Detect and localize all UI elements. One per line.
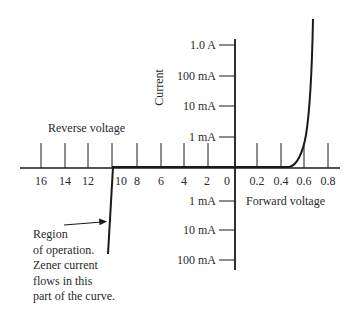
- reverse-voltage-label: Reverse voltage: [48, 121, 125, 135]
- tick-label-100ma-neg: 100 mA: [160, 253, 216, 267]
- forward-voltage-label: Forward voltage: [246, 194, 325, 208]
- tick-label-10ma-pos: 10 mA: [160, 99, 216, 113]
- tick-label-1ma-pos: 1 mA: [160, 130, 216, 144]
- tick-label-fv-0.2: 0.2: [244, 174, 270, 188]
- annotation-line: Region: [33, 227, 115, 243]
- tick-label-rv-6: 6: [151, 174, 171, 188]
- annotation-line: Zener current: [33, 258, 115, 274]
- tick-label-rv-12: 12: [76, 174, 100, 188]
- tick-label-rv-4: 4: [174, 174, 194, 188]
- tick-label-1ma-neg: 1 mA: [160, 194, 216, 208]
- tick-label-10ma-neg: 10 mA: [160, 223, 216, 237]
- current-ticks-negative: [219, 201, 235, 260]
- zener-region-annotation: Region of operation. Zener current flows…: [33, 227, 115, 305]
- annotation-arrow-icon: [64, 219, 107, 226]
- forward-conduction-curve: [235, 19, 313, 167]
- tick-label-1a: 1.0 A: [160, 38, 216, 52]
- zener-diode-diagram: Current Reverse voltage Forward voltage …: [0, 0, 353, 322]
- reverse-voltage-ticks: [41, 143, 208, 168]
- tick-label-100ma-pos: 100 mA: [160, 69, 216, 83]
- tick-label-rv-0: 0: [217, 174, 237, 188]
- tick-label-rv-16: 16: [29, 174, 53, 188]
- annotation-line: of operation.: [33, 243, 115, 259]
- forward-voltage-ticks: [257, 143, 328, 168]
- current-ticks-positive: [219, 45, 235, 137]
- annotation-line: part of the curve.: [33, 289, 115, 305]
- tick-label-fv-0.6: 0.6: [291, 174, 317, 188]
- tick-label-rv-8: 8: [127, 174, 147, 188]
- annotation-line: flows in this: [33, 274, 115, 290]
- tick-label-rv-2: 2: [197, 174, 217, 188]
- tick-label-fv-0.8: 0.8: [315, 174, 341, 188]
- tick-label-rv-14: 14: [53, 174, 77, 188]
